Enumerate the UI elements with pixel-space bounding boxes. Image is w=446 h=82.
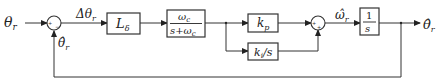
feedback-label: θ̂r: [58, 36, 70, 52]
speed-estimate-label: ω̂r: [335, 8, 350, 24]
svg-text:θ̂r: θ̂r: [423, 17, 436, 34]
block-ki-over-s: ki/s: [248, 43, 278, 60]
block-l-delta: Lδ: [107, 13, 140, 34]
svg-text:+: +: [312, 20, 316, 26]
input-label: θr: [4, 14, 17, 32]
svg-text:s: s: [365, 23, 370, 34]
summing-junction-2: + +: [311, 16, 325, 30]
svg-text:ki/s: ki/s: [254, 46, 273, 60]
block-lowpass-filter: ωc s+ωc: [167, 10, 205, 38]
svg-text:ω̂r: ω̂r: [335, 8, 350, 24]
svg-text:θ̂r: θ̂r: [58, 36, 70, 52]
summing-junction-1: + −: [47, 16, 61, 30]
svg-text:1: 1: [366, 10, 372, 21]
block-integrator: 1 s: [360, 8, 379, 35]
svg-text:Δθr: Δθr: [75, 7, 97, 23]
wire-to-ki: [226, 23, 248, 51]
pll-block-diagram: θr + − Δθr Lδ ωc s+ωc kp ki/s: [0, 0, 446, 82]
output-label: θ̂r: [423, 17, 436, 34]
block-kp: kp: [248, 14, 278, 32]
svg-text:+: +: [48, 20, 52, 26]
wire-ki-to-sum2: [278, 30, 318, 51]
svg-text:−: −: [55, 23, 60, 30]
svg-text:+: +: [317, 24, 321, 30]
feedback-wire: [54, 23, 401, 77]
svg-text:θr: θr: [4, 14, 17, 32]
error-signal-label: Δθr: [75, 7, 97, 23]
